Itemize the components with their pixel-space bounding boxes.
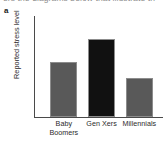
x-tick-label-line-1: Millennials <box>123 119 157 128</box>
bar-baby-boomers <box>50 62 77 117</box>
bar-millennials <box>126 78 153 117</box>
truncated-caption-text: ers the diagrams below that illustrate t… <box>3 0 155 3</box>
x-tick-label-line-1: Baby <box>56 119 72 128</box>
x-axis-line <box>34 117 163 118</box>
bar-gen-xers <box>88 39 115 117</box>
x-tick-label-line-1: Gen Xers <box>86 119 116 128</box>
figure-panel: ers the diagrams below that illustrate t… <box>0 0 165 145</box>
x-tick-label-millennials: Millennials <box>113 119 165 128</box>
x-axis-tick-labels: Baby Boomers Gen Xers Millennials <box>35 119 163 143</box>
panel-label: a <box>4 7 8 15</box>
plot-area <box>35 17 163 117</box>
x-tick-label-line-2: Boomers <box>38 128 90 137</box>
truncated-caption-sliver: ers the diagrams below that illustrate t… <box>0 0 165 4</box>
y-axis-label: Reported stress level <box>13 1 20 89</box>
